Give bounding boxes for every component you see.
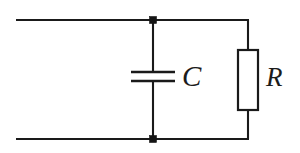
resistor-box bbox=[238, 50, 258, 110]
capacitor-label: C bbox=[182, 62, 201, 91]
circuit-diagram: C R bbox=[0, 0, 300, 153]
top-junction-node bbox=[150, 17, 157, 24]
bottom-junction-node bbox=[150, 136, 157, 143]
resistor-label: R bbox=[266, 64, 283, 91]
circuit-schematic-svg bbox=[0, 0, 300, 153]
